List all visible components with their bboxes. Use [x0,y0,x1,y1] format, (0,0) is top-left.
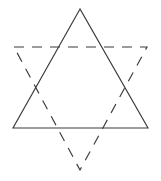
hexagram-figure [0,0,161,181]
figure-background [0,0,161,181]
figure-canvas [0,0,161,181]
